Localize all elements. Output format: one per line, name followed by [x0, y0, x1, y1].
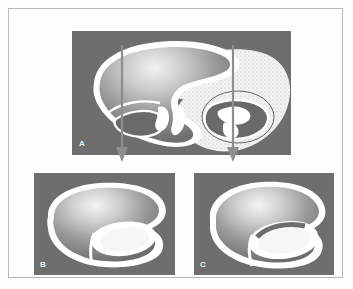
panel-b-label: B [40, 261, 46, 269]
panel-c-illustration [194, 173, 334, 275]
panel-c: C [194, 173, 334, 275]
figure-frame: A [8, 8, 343, 278]
panel-a-label: A [79, 140, 85, 148]
panel-a: A [72, 31, 291, 155]
panel-c-label: C [200, 261, 206, 269]
panel-b: B [34, 173, 175, 275]
panel-a-illustration [72, 31, 291, 155]
figure-root: A [0, 0, 353, 289]
panel-b-illustration [34, 173, 175, 275]
